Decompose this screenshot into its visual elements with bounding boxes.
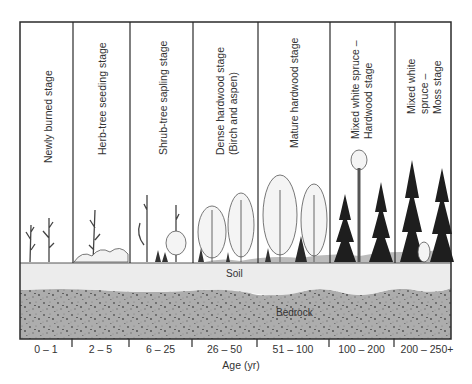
soil-label: Soil bbox=[226, 268, 243, 279]
spruce-hardwood-icons bbox=[334, 150, 393, 262]
herb-seedling-icons bbox=[74, 210, 128, 262]
spruce-moss-icons bbox=[400, 160, 454, 262]
stage-label-dense-hardwood: Dense hardwood stage bbox=[214, 47, 226, 155]
dense-hardwood-icons bbox=[198, 193, 254, 262]
stage-label-herb-tree-seeding: Herb-tree seeding stage bbox=[96, 42, 108, 155]
stage-label-spruce-hardwood-sub: Hardwood stage bbox=[362, 63, 374, 139]
stage-label-dense-hardwood-sub: (Birch and aspen) bbox=[227, 72, 239, 155]
burned-snag-icons bbox=[26, 218, 54, 262]
age-label-6-25: 6 – 25 bbox=[129, 343, 192, 355]
bedrock-label: Bedrock bbox=[276, 307, 313, 318]
age-label-0-1: 0 – 1 bbox=[20, 343, 72, 355]
stage-label-spruce-moss-3: Moss stage bbox=[431, 60, 443, 114]
stage-label-spruce-hardwood: Mixed white spruce – bbox=[349, 40, 361, 139]
bedrock-layer bbox=[20, 288, 451, 339]
succession-diagram: Newly burned stage Herb-tree seeding sta… bbox=[0, 0, 472, 384]
stage-label-spruce-moss-2: spruce – bbox=[418, 74, 430, 114]
stage-label-spruce-moss-1: Mixed white bbox=[405, 59, 417, 114]
stage-label-mature-hardwood: Mature hardwood stage bbox=[288, 38, 300, 148]
stage-label-newly-burned: Newly burned stage bbox=[42, 70, 54, 163]
age-label-200-250: 200 – 250+ bbox=[394, 343, 460, 355]
age-label-51-100: 51 – 100 bbox=[257, 343, 329, 355]
stage-label-shrub-tree-sapling: Shrub-tree sapling stage bbox=[157, 41, 169, 155]
shrub-sapling-icons bbox=[139, 195, 186, 262]
age-label-26-50: 26 – 50 bbox=[192, 343, 257, 355]
mature-hardwood-icons bbox=[263, 175, 327, 262]
axis-title: Age (yr) bbox=[0, 359, 472, 371]
diagram-canvas bbox=[0, 0, 472, 384]
age-label-2-5: 2 – 5 bbox=[72, 343, 129, 355]
age-label-100-200: 100 – 200 bbox=[329, 343, 394, 355]
